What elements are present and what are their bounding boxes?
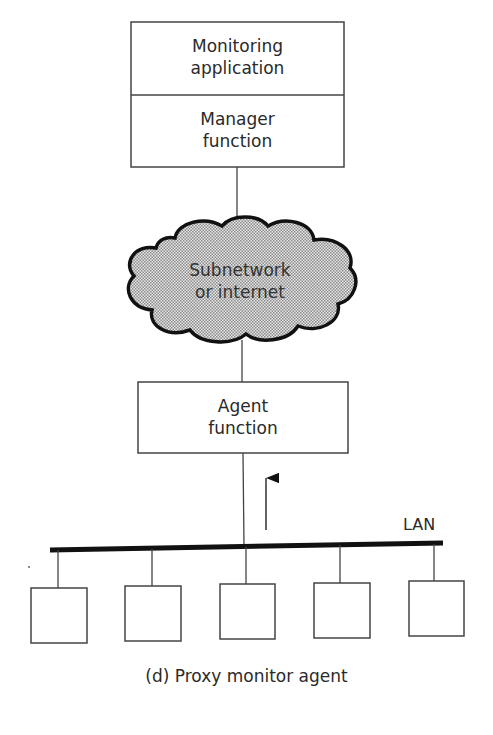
cloud-label-line1: Subnetwork bbox=[140, 259, 340, 281]
figure-caption: (d) Proxy monitor agent bbox=[0, 666, 493, 686]
manager-function-label: Manager function bbox=[131, 108, 344, 152]
lan-label: LAN bbox=[403, 515, 435, 534]
lan-device-1 bbox=[31, 588, 87, 643]
monitoring-application-line2: application bbox=[131, 57, 344, 79]
agent-function-label: Agent function bbox=[138, 395, 348, 439]
connector-agent-lan bbox=[243, 453, 244, 546]
agent-function-line2: function bbox=[138, 417, 348, 439]
monitoring-application-line1: Monitoring bbox=[131, 35, 344, 57]
manager-function-line2: function bbox=[131, 130, 344, 152]
lan-devices bbox=[31, 544, 464, 643]
stray-dot bbox=[28, 566, 30, 568]
cloud-label: Subnetwork or internet bbox=[140, 259, 340, 303]
lan-device-5 bbox=[409, 581, 464, 636]
lan-device-3 bbox=[220, 584, 275, 639]
cloud-label-line2: or internet bbox=[140, 281, 340, 303]
lan-device-4 bbox=[314, 583, 370, 638]
monitoring-application-label: Monitoring application bbox=[131, 35, 344, 79]
manager-function-line1: Manager bbox=[131, 108, 344, 130]
agent-function-line1: Agent bbox=[138, 395, 348, 417]
lan-device-2 bbox=[125, 586, 181, 641]
